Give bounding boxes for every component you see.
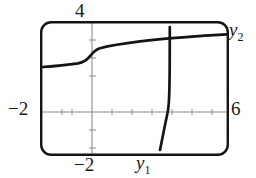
x-max-label: 6 [231, 99, 241, 118]
y-min-label: −2 [74, 155, 94, 174]
x-min-label: −2 [8, 99, 28, 118]
figure-background [0, 0, 256, 178]
graph-figure [0, 0, 256, 178]
curve-label-y2: y2 [229, 20, 243, 43]
curve-label-y1: y1 [136, 153, 150, 176]
curve-label-y1-subscript: 1 [144, 163, 150, 177]
curve-label-y2-subscript: 2 [237, 30, 243, 44]
y-max-label: 4 [75, 1, 85, 20]
